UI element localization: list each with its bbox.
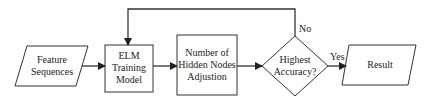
edge-label-no: No <box>299 23 311 35</box>
decision-label: Highest Accuracy? <box>265 54 325 78</box>
elm-training-model-label: ELM Training Model <box>105 50 153 86</box>
hidden-nodes-label: Number of Hidden Nodes Adjustion <box>177 47 237 83</box>
result-label: Result <box>350 59 410 71</box>
edge-label-yes: Yes <box>330 51 345 63</box>
feature-sequences-label: Feature Sequences <box>22 54 82 78</box>
